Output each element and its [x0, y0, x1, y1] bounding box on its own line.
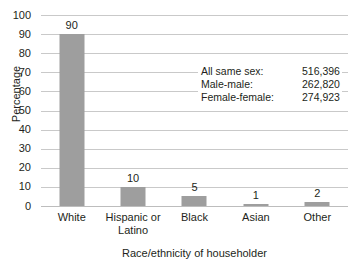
gridline: [41, 206, 348, 207]
annotation-box: All same sex:516,396Male-male:262,820Fem…: [198, 63, 342, 106]
annotation-value: 274,923: [288, 91, 340, 104]
bar[interactable]: [121, 187, 146, 206]
bar-value-label: 5: [191, 182, 197, 193]
bar[interactable]: [59, 34, 84, 206]
x-axis-tick-label: White: [41, 211, 102, 224]
annotation-value: 516,396: [288, 65, 340, 78]
annotation-label: All same sex:: [201, 65, 263, 78]
x-axis-tick-label-line: Asian: [225, 211, 286, 224]
bar-group[interactable]: 1: [225, 15, 286, 206]
bars-layer: 9010512: [41, 15, 348, 206]
x-axis-tick-label-line: Other: [287, 211, 348, 224]
annotation-row: All same sex:516,396: [201, 65, 340, 78]
bar-group[interactable]: 10: [102, 15, 163, 206]
bar[interactable]: [243, 204, 268, 206]
x-axis-tick-label-line: Latino: [102, 224, 163, 237]
y-axis-tick-label: 20: [1, 162, 31, 173]
bar-group[interactable]: 5: [164, 15, 225, 206]
y-axis-tick-label: 50: [1, 105, 31, 116]
y-axis-tick-label: 100: [1, 10, 31, 21]
y-axis-tick-label: 40: [1, 124, 31, 135]
x-axis-tick-label-line: White: [41, 211, 102, 224]
y-axis-tick-label: 10: [1, 181, 31, 192]
plot-area: 0102030405060708090100 9010512: [41, 15, 348, 206]
bar-value-label: 1: [253, 190, 259, 201]
y-axis-tick-label: 70: [1, 67, 31, 78]
y-axis-tick-label: 0: [1, 201, 31, 212]
annotation-row: Male-male:262,820: [201, 78, 340, 91]
x-axis-tick-label: Black: [164, 211, 225, 224]
x-axis-tick-label: Hispanic orLatino: [102, 211, 163, 236]
bar-value-label: 2: [314, 188, 320, 199]
annotation-label: Female-female:: [201, 91, 274, 104]
y-axis-tick-label: 80: [1, 48, 31, 59]
x-axis-tick-labels: WhiteHispanic orLatinoBlackAsianOther: [41, 211, 348, 247]
x-axis-tick-label: Asian: [225, 211, 286, 224]
annotation-row: Female-female:274,923: [201, 91, 340, 104]
x-axis-tick-label-line: Hispanic or: [102, 211, 163, 224]
bar[interactable]: [305, 202, 330, 206]
annotation-label: Male-male:: [201, 78, 253, 91]
x-axis-title: Race/ethnicity of householder: [41, 247, 348, 259]
bar-group[interactable]: 2: [287, 15, 348, 206]
y-axis-tick-label: 90: [1, 29, 31, 40]
y-axis-tick-label: 60: [1, 86, 31, 97]
bar-group[interactable]: 90: [41, 15, 102, 206]
bar-chart: Percentage 0102030405060708090100 901051…: [0, 0, 355, 265]
bar-value-label: 90: [66, 20, 78, 31]
x-axis-tick-label: Other: [287, 211, 348, 224]
y-axis-tick-label: 30: [1, 143, 31, 154]
annotation-value: 262,820: [288, 78, 340, 91]
bar-value-label: 10: [127, 173, 139, 184]
x-axis-tick-label-line: Black: [164, 211, 225, 224]
bar[interactable]: [182, 196, 207, 206]
